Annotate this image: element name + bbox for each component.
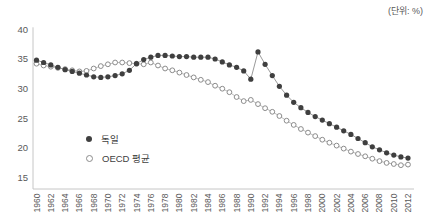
x-axis-labels: 1960196219641966196819701972197419761978… bbox=[32, 193, 414, 212]
x-tick-label: 1984 bbox=[203, 193, 213, 212]
data-point bbox=[34, 58, 39, 63]
data-point bbox=[91, 66, 96, 71]
y-tick-label: 30 bbox=[17, 83, 28, 94]
data-point bbox=[234, 65, 239, 70]
data-point bbox=[105, 74, 110, 79]
data-point bbox=[263, 62, 268, 67]
x-tick-label: 1964 bbox=[60, 193, 70, 212]
data-point bbox=[406, 162, 411, 167]
data-point bbox=[227, 90, 232, 95]
data-point bbox=[270, 73, 275, 78]
y-tick-label: 35 bbox=[17, 53, 28, 64]
y-axis-labels: 403530252015 bbox=[17, 24, 28, 183]
data-point bbox=[263, 106, 268, 111]
data-point bbox=[106, 62, 111, 67]
x-tick-label: 1970 bbox=[103, 193, 113, 212]
data-point bbox=[355, 136, 360, 141]
x-tick-label: 1996 bbox=[289, 193, 299, 212]
data-point bbox=[399, 163, 404, 168]
y-tick-label: 20 bbox=[17, 142, 28, 153]
y-tick-label: 40 bbox=[17, 24, 28, 35]
data-point bbox=[356, 152, 361, 157]
legend: 독일 OECD 평균 bbox=[86, 132, 150, 165]
data-point bbox=[298, 105, 303, 110]
data-point bbox=[277, 114, 282, 119]
data-point bbox=[198, 55, 203, 60]
data-point bbox=[141, 62, 146, 67]
data-point bbox=[384, 150, 389, 155]
data-point bbox=[270, 109, 275, 114]
x-tick-label: 1974 bbox=[132, 193, 142, 212]
x-tick-label: 2008 bbox=[374, 193, 384, 212]
data-point bbox=[177, 70, 182, 75]
data-point bbox=[70, 69, 75, 74]
y-tick-label: 25 bbox=[17, 113, 28, 124]
data-point bbox=[63, 67, 68, 72]
data-point bbox=[113, 60, 118, 65]
x-tick-label: 1998 bbox=[303, 193, 313, 212]
data-point bbox=[341, 128, 346, 133]
data-point bbox=[41, 60, 46, 65]
data-point bbox=[234, 95, 239, 100]
data-point bbox=[163, 53, 168, 58]
data-point bbox=[313, 114, 318, 119]
data-point bbox=[348, 132, 353, 137]
data-point bbox=[284, 118, 289, 123]
data-point bbox=[155, 53, 160, 58]
data-point bbox=[241, 68, 246, 73]
data-point bbox=[91, 74, 96, 79]
data-point bbox=[184, 73, 189, 78]
data-point bbox=[349, 149, 354, 154]
legend-label-oecd: OECD 평균 bbox=[102, 151, 150, 165]
data-point bbox=[377, 147, 382, 152]
data-point bbox=[391, 153, 396, 158]
data-point bbox=[120, 60, 125, 65]
data-point bbox=[127, 68, 132, 73]
data-point bbox=[191, 55, 196, 60]
x-tick-label: 1962 bbox=[46, 193, 56, 212]
open-circle-icon bbox=[86, 155, 93, 162]
data-point bbox=[291, 100, 296, 105]
x-tick-label: 1966 bbox=[74, 193, 84, 212]
data-point bbox=[370, 144, 375, 149]
data-point bbox=[277, 84, 282, 89]
data-point bbox=[141, 57, 146, 62]
data-point bbox=[163, 66, 168, 71]
data-point bbox=[320, 137, 325, 142]
data-point bbox=[320, 118, 325, 123]
data-point bbox=[213, 83, 218, 88]
data-point bbox=[120, 71, 125, 76]
data-point bbox=[291, 123, 296, 128]
data-point bbox=[306, 130, 311, 135]
chart-panel: (단위: %) 40353025201519601962196419661968… bbox=[0, 0, 430, 222]
x-tick-label: 1992 bbox=[260, 193, 270, 212]
data-point bbox=[98, 64, 103, 69]
x-tick-label: 1986 bbox=[217, 193, 227, 212]
data-point bbox=[363, 154, 368, 159]
x-tick-label: 1978 bbox=[160, 193, 170, 212]
data-point bbox=[334, 143, 339, 148]
line-chart: 4035302520151960196219641966196819701972… bbox=[0, 0, 430, 222]
x-tick-label: 1982 bbox=[189, 193, 199, 212]
data-point bbox=[177, 54, 182, 59]
data-point bbox=[134, 61, 139, 66]
data-point bbox=[327, 140, 332, 145]
data-point bbox=[327, 121, 332, 126]
x-tick-label: 1960 bbox=[32, 193, 42, 212]
data-point bbox=[205, 55, 210, 60]
data-point bbox=[184, 54, 189, 59]
data-point bbox=[384, 161, 389, 166]
data-point bbox=[305, 110, 310, 115]
legend-label-germany: 독일 bbox=[101, 132, 119, 146]
data-point bbox=[334, 125, 339, 130]
data-point bbox=[191, 75, 196, 80]
data-point bbox=[77, 71, 82, 76]
data-point bbox=[98, 75, 103, 80]
data-point bbox=[256, 102, 261, 107]
data-point bbox=[198, 77, 203, 82]
y-tick-label: 15 bbox=[17, 172, 28, 183]
x-tick-label: 2004 bbox=[346, 193, 356, 212]
data-point bbox=[255, 49, 260, 54]
data-point bbox=[398, 154, 403, 159]
x-tick-label: 1988 bbox=[232, 193, 242, 212]
